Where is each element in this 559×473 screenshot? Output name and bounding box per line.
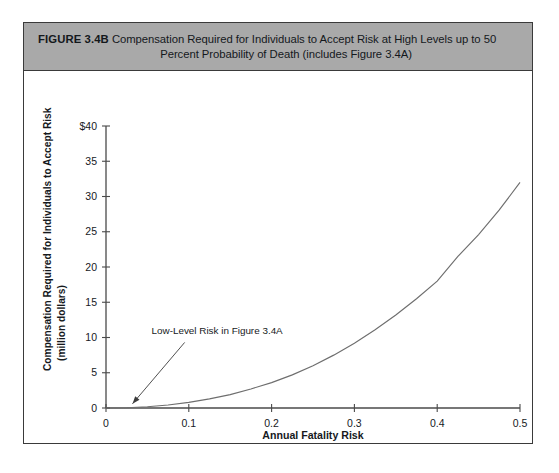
y-axis-title-line1: Compensation Required for Individuals to…: [42, 107, 53, 371]
svg-text:0: 0: [103, 417, 109, 429]
svg-text:0.1: 0.1: [181, 417, 196, 429]
svg-text:0.5: 0.5: [513, 417, 528, 429]
svg-text:0.3: 0.3: [347, 417, 362, 429]
svg-text:0: 0: [91, 402, 97, 414]
x-axis-title: Annual Fatality Risk: [262, 429, 363, 441]
svg-text:20: 20: [85, 261, 97, 273]
x-axis-tick-labels: 00.10.20.30.40.5: [103, 417, 527, 429]
annotation-arrow-line: [132, 342, 184, 403]
figure-header-bar: FIGURE 3.4B Compensation Required for In…: [24, 23, 532, 71]
figure-label: FIGURE 3.4B: [38, 33, 109, 45]
svg-text:15: 15: [85, 296, 97, 308]
figure-header-text: FIGURE 3.4B Compensation Required for In…: [24, 29, 510, 65]
figure-title-line1: Compensation Required for Individuals to…: [112, 33, 496, 45]
svg-text:30: 30: [85, 190, 97, 202]
data-series-curve: [106, 182, 520, 408]
annotation-label: Low-Level Risk in Figure 3.4A: [152, 325, 284, 336]
y-axis-title-line2: (million dollars): [56, 285, 67, 361]
svg-text:0.4: 0.4: [430, 417, 445, 429]
svg-text:10: 10: [85, 331, 97, 343]
svg-text:5: 5: [91, 366, 97, 378]
figure-container: FIGURE 3.4B Compensation Required for In…: [23, 22, 533, 444]
svg-text:0.2: 0.2: [264, 417, 279, 429]
svg-text:35: 35: [85, 155, 97, 167]
svg-text:25: 25: [85, 225, 97, 237]
figure-title-line2: Percent Probability of Death (includes F…: [38, 47, 496, 62]
y-axis-title: Compensation Required for Individuals to…: [42, 107, 67, 371]
svg-text:$40: $40: [79, 120, 97, 132]
chart-plot-region: Compensation Required for Individuals to…: [24, 71, 532, 443]
annotation-low-level-risk: Low-Level Risk in Figure 3.4A: [132, 325, 283, 404]
chart-svg: Compensation Required for Individuals to…: [24, 71, 531, 443]
y-axis-tick-labels: 05101520253035$40: [79, 120, 97, 414]
